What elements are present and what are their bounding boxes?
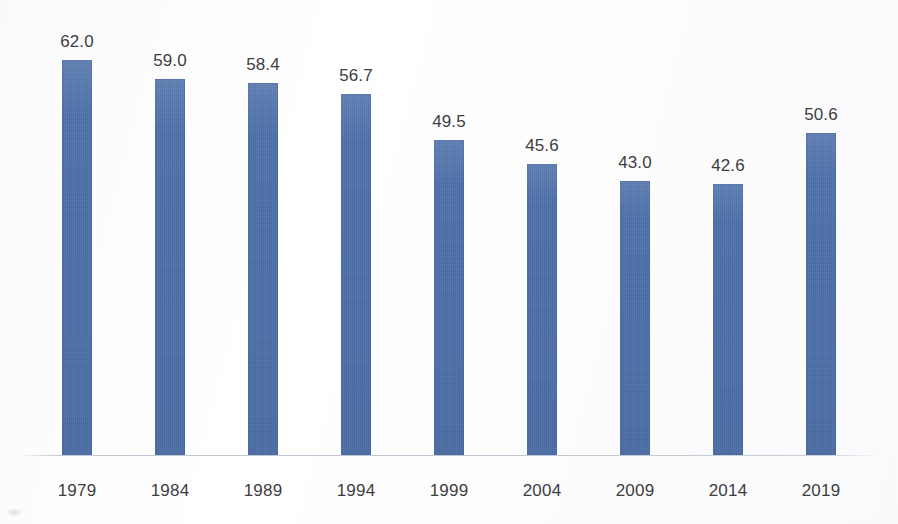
bar-1989 bbox=[248, 83, 278, 455]
value-label-2014: 42.6 bbox=[688, 156, 768, 175]
category-label-1989: 1989 bbox=[218, 481, 308, 501]
bar-1979 bbox=[62, 60, 92, 455]
value-label-1979: 62.0 bbox=[37, 32, 117, 51]
value-label-2004: 45.6 bbox=[502, 136, 582, 155]
category-label-1984: 1984 bbox=[125, 481, 215, 501]
category-label-2009: 2009 bbox=[590, 481, 680, 501]
value-label-1989: 58.4 bbox=[223, 55, 303, 74]
x-axis-line bbox=[22, 455, 875, 456]
bar-2004 bbox=[527, 164, 557, 455]
bar-2014 bbox=[713, 184, 743, 455]
bar-2019 bbox=[806, 133, 836, 455]
value-label-1999: 49.5 bbox=[409, 112, 489, 131]
bar-1999 bbox=[434, 140, 464, 455]
bar-1984 bbox=[155, 79, 185, 455]
value-label-1984: 59.0 bbox=[130, 51, 210, 70]
category-label-1994: 1994 bbox=[311, 481, 401, 501]
category-label-1999: 1999 bbox=[404, 481, 494, 501]
value-label-1994: 56.7 bbox=[316, 66, 396, 85]
category-label-2004: 2004 bbox=[497, 481, 587, 501]
bar-chart: 62.0197959.0198458.4198956.7199449.51999… bbox=[0, 0, 898, 524]
category-label-2019: 2019 bbox=[776, 481, 866, 501]
value-label-2019: 50.6 bbox=[781, 105, 861, 124]
category-label-1979: 1979 bbox=[32, 481, 122, 501]
value-label-2009: 43.0 bbox=[595, 153, 675, 172]
bar-1994 bbox=[341, 94, 371, 455]
plot-area: 62.0197959.0198458.4198956.7199449.51999… bbox=[0, 0, 898, 524]
category-label-2014: 2014 bbox=[683, 481, 773, 501]
bar-2009 bbox=[620, 181, 650, 455]
